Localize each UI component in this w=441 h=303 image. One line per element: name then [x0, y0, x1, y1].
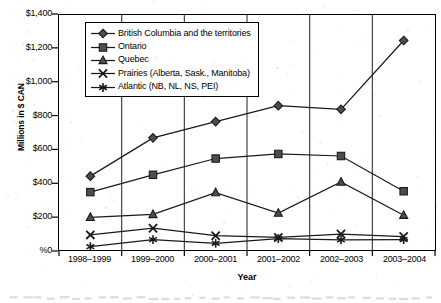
data-point-diamond	[149, 134, 158, 143]
legend-marker-diamond-icon	[90, 26, 116, 39]
data-point-diamond	[211, 117, 220, 126]
y-tick-label: $400	[8, 177, 52, 187]
y-tick-label: $1,000	[8, 76, 52, 86]
data-point-square	[87, 188, 94, 195]
y-axis-tick-labels: %0$200$400$600$800$1,000$1,200$1,400	[0, 0, 52, 303]
legend-label: Ontario	[116, 41, 146, 51]
legend-marker-square-icon	[90, 40, 116, 53]
legend-label: Prairies (Alberta, Sask., Manitoba)	[116, 68, 250, 78]
y-tick-label: $800	[8, 110, 52, 120]
legend-item: British Columbia and the territories	[90, 26, 251, 39]
y-tick-label: $1,200	[8, 42, 52, 52]
x-axis-label: Year	[58, 272, 436, 282]
legend-item: Ontario	[90, 39, 251, 52]
data-point-diamond	[274, 101, 283, 110]
data-point-triangle	[400, 211, 408, 219]
data-point-diamond	[99, 29, 108, 38]
chart-legend: British Columbia and the territoriesOnta…	[85, 22, 259, 97]
data-point-square	[212, 155, 219, 162]
line-chart-figure: Millions in $ CAN %0$200$400$600$800$1,0…	[0, 0, 441, 303]
legend-item: Quebec	[90, 53, 251, 66]
data-point-square	[99, 43, 106, 50]
legend-item: Atlantic (NB, NL, NS, PEI)	[90, 80, 251, 93]
data-point-triangle	[337, 178, 345, 186]
legend-marker-asterisk-icon	[90, 80, 116, 93]
x-axis-ticks	[58, 250, 436, 257]
legend-marker-triangle-icon	[90, 53, 116, 66]
y-axis-ticks	[52, 0, 58, 303]
legend-label: Atlantic (NB, NL, NS, PEI)	[116, 81, 218, 91]
data-point-square	[337, 152, 344, 159]
y-tick-label: $200	[8, 211, 52, 221]
legend-label: British Columbia and the territories	[116, 28, 251, 38]
legend-label: Quebec	[116, 54, 149, 64]
legend-marker-cross-icon	[90, 66, 116, 79]
y-tick-label: $600	[8, 143, 52, 153]
data-point-diamond	[86, 172, 95, 181]
data-point-square	[275, 150, 282, 157]
data-point-triangle	[212, 188, 220, 196]
data-point-square	[149, 171, 156, 178]
y-tick-label: %0	[8, 245, 52, 255]
data-point-square	[400, 188, 407, 195]
legend-item: Prairies (Alberta, Sask., Manitoba)	[90, 66, 251, 79]
y-tick-label: $1,400	[8, 8, 52, 18]
